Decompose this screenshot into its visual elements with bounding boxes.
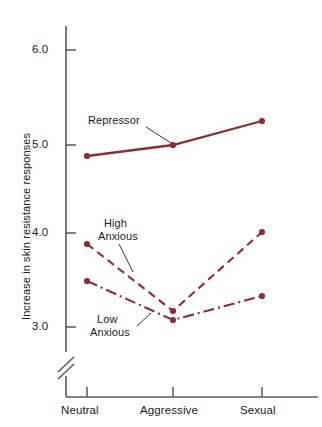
- y-axis-title: Increase in skin resistance responses: [20, 133, 32, 320]
- leader-line-repressor: [146, 127, 171, 143]
- datapoint-repressor-sexual: [259, 118, 265, 124]
- y-tick-label-6: 6.0: [32, 43, 48, 55]
- datapoint-high-anxious-sexual: [259, 229, 265, 235]
- datapoint-low-anxious-aggressive: [170, 317, 176, 323]
- line-chart-canvas: [0, 0, 322, 427]
- datapoint-high-anxious-aggressive: [170, 308, 176, 314]
- y-tick-label-5: 5.0: [32, 138, 48, 150]
- series-annotation-repressor: Repressor: [88, 114, 140, 127]
- y-tick-label-4: 4.0: [32, 226, 48, 238]
- x-label-sexual: Sexual: [240, 404, 276, 416]
- datapoint-low-anxious-neutral: [84, 278, 90, 284]
- datapoint-low-anxious-sexual: [259, 293, 265, 299]
- series-annotation-high-anxious-line1: High: [104, 217, 127, 230]
- x-label-aggressive: Aggressive: [140, 404, 198, 416]
- x-label-neutral: Neutral: [61, 404, 99, 416]
- series-annotation-high-anxious-line2: Anxious: [98, 230, 138, 243]
- chart-figure: 6.0 5.0 4.0 3.0 Neutral Aggressive Sexua…: [0, 0, 322, 427]
- leader-line-low-anxious: [137, 313, 151, 326]
- leader-line-high-anxious: [119, 244, 133, 272]
- series-high-anxious-line: [87, 232, 262, 311]
- series-annotation-low-anxious-line1: Low: [97, 313, 117, 326]
- series-annotation-low-anxious-line2: Anxious: [90, 326, 130, 339]
- y-tick-label-3: 3.0: [32, 320, 48, 332]
- axis-break-icon: [58, 352, 74, 379]
- datapoint-repressor-neutral: [84, 153, 90, 159]
- datapoint-high-anxious-neutral: [84, 241, 90, 247]
